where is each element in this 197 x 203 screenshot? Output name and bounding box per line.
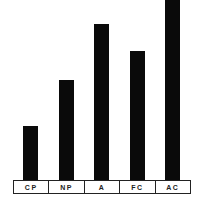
- bar-np: [59, 80, 74, 180]
- bar-ac: [165, 0, 180, 180]
- category-label-fc: FC: [120, 181, 155, 193]
- bar-cp: [23, 126, 38, 180]
- bar-chart: CP NP A FC AC: [0, 0, 197, 203]
- bar-a: [94, 24, 109, 180]
- category-label-ac: AC: [156, 181, 190, 193]
- category-label-cp: CP: [14, 181, 49, 193]
- category-label-row: CP NP A FC AC: [13, 180, 191, 194]
- category-label-np: NP: [49, 181, 84, 193]
- category-label-a: A: [85, 181, 120, 193]
- bar-fc: [130, 51, 145, 180]
